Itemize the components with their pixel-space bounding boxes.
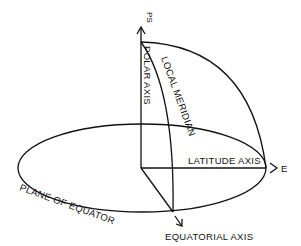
- equatorial-axis-label: EQUATORIAL AXIS: [165, 231, 253, 242]
- equatorial-arrow-shaft: [175, 216, 181, 225]
- coordinate-axes-diagram: PS POLAR AXIS LOCAL MERIDIAN LATITUDE AX…: [0, 0, 301, 246]
- outer-meridian-arc: [141, 42, 266, 168]
- plane-of-equator-label: PLANE OF EQUATOR: [18, 182, 116, 227]
- polar-axis-label: POLAR AXIS: [142, 46, 153, 105]
- pole-label: PS: [145, 12, 154, 23]
- diagram-canvas: PS POLAR AXIS LOCAL MERIDIAN LATITUDE AX…: [0, 0, 301, 246]
- latitude-axis-label: LATITUDE AXIS: [188, 155, 261, 166]
- equatorial-axis-line: [141, 168, 173, 212]
- east-arrow-icon: [270, 163, 277, 173]
- east-label: E: [281, 163, 288, 174]
